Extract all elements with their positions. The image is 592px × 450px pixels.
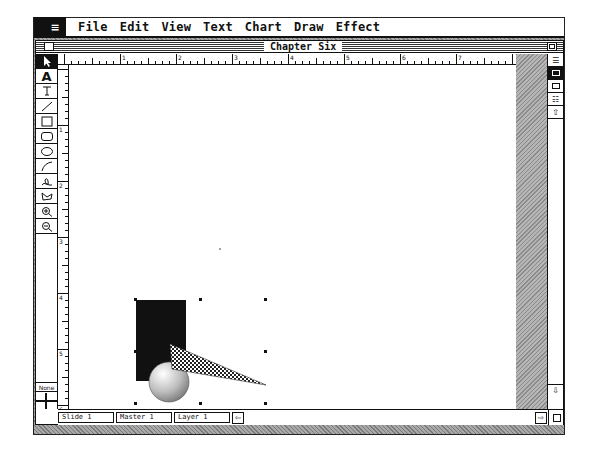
ruler-tick <box>372 58 373 64</box>
document-window: Chapter Six A <box>35 40 564 425</box>
letter-a-icon: A <box>41 69 51 84</box>
ruler-tick <box>141 61 142 64</box>
ruler-tick <box>204 58 205 64</box>
ruler-tick <box>414 61 415 64</box>
slide-view-icon[interactable] <box>548 67 563 80</box>
zoom-in-tool[interactable] <box>36 204 57 219</box>
ruler-tick <box>260 58 261 64</box>
ruler-tick <box>505 61 506 64</box>
text-tool[interactable]: A <box>36 69 57 84</box>
freehand-tool[interactable] <box>36 174 57 189</box>
menu-text[interactable]: Text <box>203 20 233 34</box>
scroll-right-arrow-icon[interactable]: ⇨ <box>535 412 547 424</box>
ruler-tick <box>65 132 68 133</box>
menu-effect[interactable]: Effect <box>336 20 381 34</box>
ruler-tick <box>65 286 68 287</box>
ruler-tick <box>65 118 68 119</box>
ruler-tick <box>225 61 226 64</box>
apple-menu-icon[interactable]: ≡ <box>44 17 66 37</box>
magnifier-plus-icon <box>40 206 54 217</box>
ruler-tick <box>65 90 68 91</box>
pointer-tool[interactable] <box>36 54 57 69</box>
close-box[interactable] <box>44 42 54 51</box>
ruler-tick <box>65 146 68 147</box>
ruler-tick <box>78 61 79 64</box>
ruler-tick <box>386 61 387 64</box>
ruler-tick <box>65 272 68 273</box>
ruler-tick <box>134 61 135 64</box>
vertical-scrollbar[interactable]: ☰ ☷ ⇧ ⇩ <box>547 54 563 409</box>
zoom-out-tool[interactable] <box>36 219 57 234</box>
window-title: Chapter Six <box>264 41 342 52</box>
polygon-tool[interactable] <box>36 189 57 204</box>
ruler-tick <box>65 258 68 259</box>
size-box[interactable] <box>548 410 563 425</box>
menu-bar: ≡ File Edit View Text Chart Draw Effect <box>34 18 564 38</box>
ruler-tick <box>344 54 345 64</box>
ruler-tick <box>470 61 471 64</box>
layer-tab[interactable]: Layer 1 <box>174 412 230 423</box>
ruler-label: 3 <box>234 54 238 61</box>
ruler-label: 1 <box>59 126 63 133</box>
slide-tab[interactable]: Slide 1 <box>58 412 114 423</box>
ruler-tick <box>197 61 198 64</box>
notes-view-icon[interactable] <box>548 80 563 93</box>
line-tool[interactable] <box>36 99 57 114</box>
ruler-tick <box>65 300 68 301</box>
zoom-box[interactable] <box>547 42 557 51</box>
master-tab[interactable]: Master 1 <box>116 412 172 423</box>
rectangle-tool[interactable] <box>36 114 57 129</box>
ruler-tick <box>330 61 331 64</box>
ruler-tick <box>393 61 394 64</box>
ruler-tick <box>218 61 219 64</box>
drawing-area <box>70 66 516 409</box>
ruler-tick <box>65 160 68 161</box>
ruler-tick <box>358 61 359 64</box>
ruler-tick <box>65 363 68 364</box>
rounded-rectangle-tool[interactable] <box>36 129 57 144</box>
outline-view-icon[interactable]: ☰ <box>548 54 563 67</box>
ruler-tick <box>62 97 68 98</box>
title-bar[interactable]: Chapter Six <box>36 41 563 53</box>
ruler-tick <box>65 384 68 385</box>
slide-canvas[interactable] <box>70 66 516 409</box>
ruler-tick <box>498 61 499 64</box>
oval-tool[interactable] <box>36 144 57 159</box>
horizontal-scroll-track[interactable] <box>244 411 533 425</box>
ruler-tick <box>65 167 68 168</box>
ruler-label: 7 <box>458 54 462 61</box>
slide-sorter-view-icon[interactable]: ☷ <box>548 93 563 106</box>
scroll-down-arrow-icon[interactable]: ⇩ <box>548 384 563 396</box>
ruler-label: 5 <box>59 350 63 357</box>
menu-edit[interactable]: Edit <box>120 20 150 34</box>
ruler-tick <box>65 307 68 308</box>
grid-toggle-button[interactable] <box>36 393 57 409</box>
magnifier-minus-icon <box>40 221 54 232</box>
menu-view[interactable]: View <box>161 20 191 34</box>
menu-draw[interactable]: Draw <box>294 20 324 34</box>
ruler-tick <box>65 328 68 329</box>
menu-chart[interactable]: Chart <box>245 20 282 34</box>
ruler-label: 3 <box>59 238 63 245</box>
mac-screen: ≡ File Edit View Text Chart Draw Effect … <box>33 17 565 435</box>
ruler-tick <box>337 61 338 64</box>
text-column-tool[interactable] <box>36 84 57 99</box>
ruler-tick <box>435 61 436 64</box>
scroll-up-arrow-icon[interactable]: ⇧ <box>548 106 563 119</box>
ruler-tick <box>267 61 268 64</box>
none-fill-button[interactable]: None <box>36 382 57 392</box>
ruler-tick <box>456 54 457 64</box>
ruler-tick <box>65 104 68 105</box>
ruler-tick <box>253 61 254 64</box>
ruler-tick <box>463 61 464 64</box>
menu-file[interactable]: File <box>78 20 108 34</box>
ruler-tick <box>491 61 492 64</box>
ruler-tick <box>176 54 177 64</box>
ruler-tick <box>309 61 310 64</box>
ruler-tick <box>65 83 68 84</box>
ruler-tick <box>323 61 324 64</box>
scroll-left-arrow-icon[interactable]: ⇦ <box>232 412 244 424</box>
arc-tool[interactable] <box>36 159 57 174</box>
ruler-tick <box>281 61 282 64</box>
ruler-tick <box>162 61 163 64</box>
